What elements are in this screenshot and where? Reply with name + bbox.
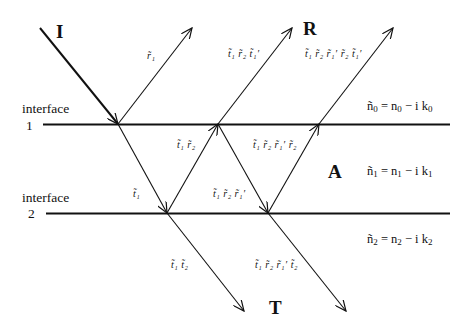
- transmitted-label: T: [269, 298, 282, 317]
- coef-t1: t̃₁: [133, 189, 140, 199]
- reflected-label: R: [303, 19, 317, 38]
- internal-ray-up-2: [268, 124, 319, 213]
- coef-t1-r2-r1p-r2-t1p: t̃₁ r̃₂ r̃₁′ r̃₂ t̃₁′: [305, 49, 362, 59]
- coef-r1: r̃₁: [147, 51, 155, 61]
- reflected-ray-2: [218, 28, 292, 124]
- coef-t1-r2-r1p-t2: t̃₁ r̃₂ r̃₁′ t̃₂: [255, 260, 298, 270]
- coef-t1-t2: t̃₁ t̃₂: [171, 260, 189, 270]
- reflected-ray-1: [118, 28, 192, 124]
- interface-1-number: 1: [26, 119, 33, 133]
- medium-1-refractive-index: ñ1 = n1 − i k1: [367, 165, 432, 179]
- interface-2-number: 2: [28, 207, 35, 221]
- thin-film-multiple-reflection-diagram: I R A T interface 1 interface 2 ñ0 = n0 …: [0, 0, 475, 334]
- medium-2-refractive-index: ñ2 = n2 − i k2: [367, 233, 432, 247]
- coef-t1-r2: t̃₁ r̃₂: [177, 140, 196, 150]
- incident-label: I: [56, 22, 63, 41]
- absorbed-label: A: [328, 162, 342, 181]
- coef-t1-r2-r1p: t̃₁ r̃₂ r̃₁′: [213, 189, 246, 199]
- interface-2-label: interface: [22, 191, 69, 205]
- internal-ray-down-2: [218, 124, 268, 213]
- coef-t1-r2-r1p-r2: t̃₁ r̃₂ r̃₁′ r̃₂: [253, 140, 297, 150]
- coef-t1-r2-t1p: t̃₁ r̃₂ t̃₁′: [228, 49, 260, 59]
- internal-ray-up-1: [167, 124, 218, 213]
- internal-ray-down-1: [118, 124, 167, 213]
- medium-0-refractive-index: ñ0 = n0 − i k0: [367, 100, 432, 114]
- interface-1-label: interface: [22, 102, 69, 116]
